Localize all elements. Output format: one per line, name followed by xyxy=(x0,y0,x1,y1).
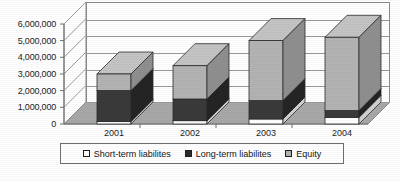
chart-container: 6,000,000 5,000,000 4,000,000 3,000,000 … xyxy=(0,0,400,181)
legend-item-long-term[interactable]: Long-term liabilites xyxy=(185,149,272,159)
legend-label-short-term: Short-term liabilites xyxy=(94,149,171,159)
x-category-label-2003: 2003 xyxy=(240,128,292,138)
chart-legend: Short-term liabilites Long-term liabilit… xyxy=(60,143,344,164)
legend-label-long-term: Long-term liabilites xyxy=(196,149,272,159)
x-category-label-2001: 2001 xyxy=(88,128,140,138)
legend-label-equity: Equity xyxy=(296,149,321,159)
legend-item-equity[interactable]: Equity xyxy=(285,149,321,159)
bar-2003[interactable] xyxy=(249,19,305,124)
bar-2004[interactable] xyxy=(325,15,381,124)
x-category-label-2002: 2002 xyxy=(164,128,216,138)
legend-swatch-short-term-icon xyxy=(83,150,90,157)
legend-swatch-long-term-icon xyxy=(185,150,192,157)
bar-2004-seg-equity xyxy=(325,15,381,110)
bar-2002[interactable] xyxy=(173,44,229,124)
legend-swatch-equity-icon xyxy=(285,150,292,157)
x-category-label-2004: 2004 xyxy=(316,128,368,138)
legend-item-short-term[interactable]: Short-term liabilites xyxy=(83,149,171,159)
bar-2001[interactable] xyxy=(97,52,153,124)
